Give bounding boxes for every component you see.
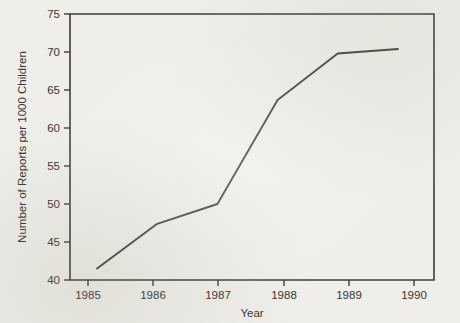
x-tick-label-1986: 1986 xyxy=(140,289,166,301)
y-axis-tick-labels: 75 70 65 60 55 50 45 40 xyxy=(47,8,60,286)
y-tick-label-55: 55 xyxy=(47,160,60,172)
x-axis-title: Year xyxy=(240,307,263,319)
plot-frame xyxy=(70,14,434,280)
y-tick-label-65: 65 xyxy=(47,84,60,96)
line-chart-plot: 75 70 65 60 55 50 45 40 1985 1986 1987 1… xyxy=(0,0,460,323)
x-tick-label-1985: 1985 xyxy=(75,289,101,301)
x-tick-label-1990: 1990 xyxy=(401,289,427,301)
x-tick-label-1988: 1988 xyxy=(271,289,297,301)
y-axis-ticks xyxy=(64,14,70,280)
data-series-line xyxy=(97,49,398,269)
y-tick-label-45: 45 xyxy=(47,236,60,248)
x-axis-ticks xyxy=(88,280,414,286)
y-tick-label-75: 75 xyxy=(47,8,60,20)
y-axis-title: Number of Reports per 1000 Children xyxy=(16,51,28,243)
x-tick-label-1987: 1987 xyxy=(205,289,231,301)
y-tick-label-50: 50 xyxy=(47,198,60,210)
y-tick-label-70: 70 xyxy=(47,46,60,58)
x-axis-tick-labels: 1985 1986 1987 1988 1989 1990 xyxy=(75,289,427,301)
axis-box xyxy=(70,14,434,280)
y-tick-label-40: 40 xyxy=(47,274,60,286)
x-tick-label-1989: 1989 xyxy=(336,289,362,301)
y-tick-label-60: 60 xyxy=(47,122,60,134)
chart-figure: 75 70 65 60 55 50 45 40 1985 1986 1987 1… xyxy=(0,0,460,323)
